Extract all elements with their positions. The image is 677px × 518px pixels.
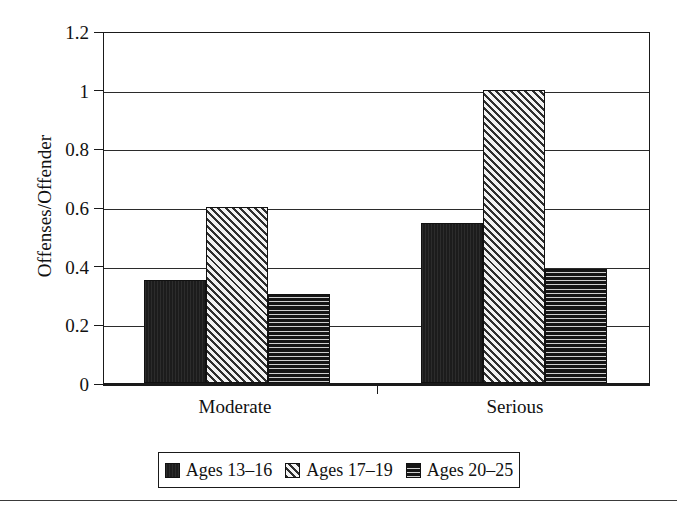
y-tick-mark [94, 149, 103, 150]
legend-entry-ages-13-16: Ages 13–16 [165, 461, 273, 479]
bar-serious-ages-17-19 [483, 90, 545, 383]
legend-swatch-horizontal-lines-icon [406, 463, 421, 478]
y-tick-label: 0 [80, 374, 90, 396]
bar-moderate-ages-13-16 [144, 280, 206, 383]
y-tick-label: 0.6 [65, 198, 89, 220]
x-axis-label-serious: Serious [440, 396, 590, 418]
bar-moderate-ages-20-25 [268, 294, 330, 384]
legend-label: Ages 13–16 [186, 461, 273, 479]
bar-moderate-ages-17-19 [206, 207, 268, 383]
y-axis-title: Offenses/Offender [34, 86, 56, 326]
page-separator-rule [0, 500, 677, 501]
gridline-0.8 [104, 150, 649, 151]
bar-serious-ages-13-16 [421, 223, 483, 383]
gridline-1.0 [104, 92, 649, 93]
y-tick-mark [94, 384, 103, 385]
x-axis-label-moderate: Moderate [160, 396, 310, 418]
legend-swatch-solid-dark-icon [165, 463, 180, 478]
chart-legend: Ages 13–16 Ages 17–19 Ages 20–25 [158, 452, 520, 488]
legend-entry-ages-20-25: Ages 20–25 [406, 461, 514, 479]
y-tick-label: 0.2 [65, 315, 89, 337]
bar-serious-ages-20-25 [545, 269, 607, 383]
y-tick-label: 0.4 [65, 257, 89, 279]
y-tick-mark [94, 32, 103, 33]
legend-entry-ages-17-19: Ages 17–19 [285, 461, 393, 479]
legend-label: Ages 20–25 [427, 461, 514, 479]
y-tick-label: 1 [80, 81, 90, 103]
y-tick-mark [94, 90, 103, 91]
y-tick-mark [94, 266, 103, 267]
y-tick-mark [94, 325, 103, 326]
plot-area [103, 32, 650, 384]
y-tick-mark [94, 208, 103, 209]
legend-swatch-diagonal-hatch-icon [285, 463, 300, 478]
y-tick-label: 0.8 [65, 139, 89, 161]
gridline-0.6 [104, 209, 649, 210]
bar-chart-figure: Offenses/Offender 1.2 1 0.8 0.6 0.4 0.2 … [0, 0, 677, 518]
x-tick-mark-middle [377, 384, 378, 394]
y-tick-label: 1.2 [65, 22, 89, 44]
legend-label: Ages 17–19 [306, 461, 393, 479]
